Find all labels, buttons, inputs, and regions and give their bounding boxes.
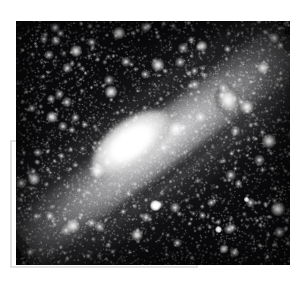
andromeda-galaxy-plate xyxy=(16,21,290,265)
plate-vignette xyxy=(16,21,290,265)
image-canvas xyxy=(0,0,306,283)
